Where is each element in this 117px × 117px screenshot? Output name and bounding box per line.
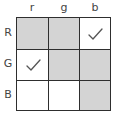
grid-divider-v2	[79, 18, 81, 110]
cell-R-r[interactable]	[17, 18, 48, 49]
cell-G-g[interactable]	[48, 49, 79, 80]
grid-divider-h1	[17, 49, 110, 51]
column-label-b: b	[79, 2, 111, 14]
cell-B-r[interactable]	[17, 80, 48, 110]
checkmark-icon	[86, 27, 104, 41]
row-label-B: B	[2, 89, 14, 101]
matrix-grid	[16, 17, 111, 111]
cell-R-b[interactable]	[79, 18, 110, 49]
row-label-G: G	[2, 58, 14, 70]
grid-divider-h2	[17, 80, 110, 82]
cell-B-b[interactable]	[79, 80, 110, 110]
checkmark-icon	[24, 58, 42, 72]
cell-G-b[interactable]	[79, 49, 110, 80]
grid-divider-v1	[48, 18, 50, 110]
cell-G-r[interactable]	[17, 49, 48, 80]
row-label-R: R	[2, 27, 14, 39]
column-label-g: g	[48, 2, 80, 14]
cell-B-g[interactable]	[48, 80, 79, 110]
cell-R-g[interactable]	[48, 18, 79, 49]
column-label-r: r	[16, 2, 48, 14]
